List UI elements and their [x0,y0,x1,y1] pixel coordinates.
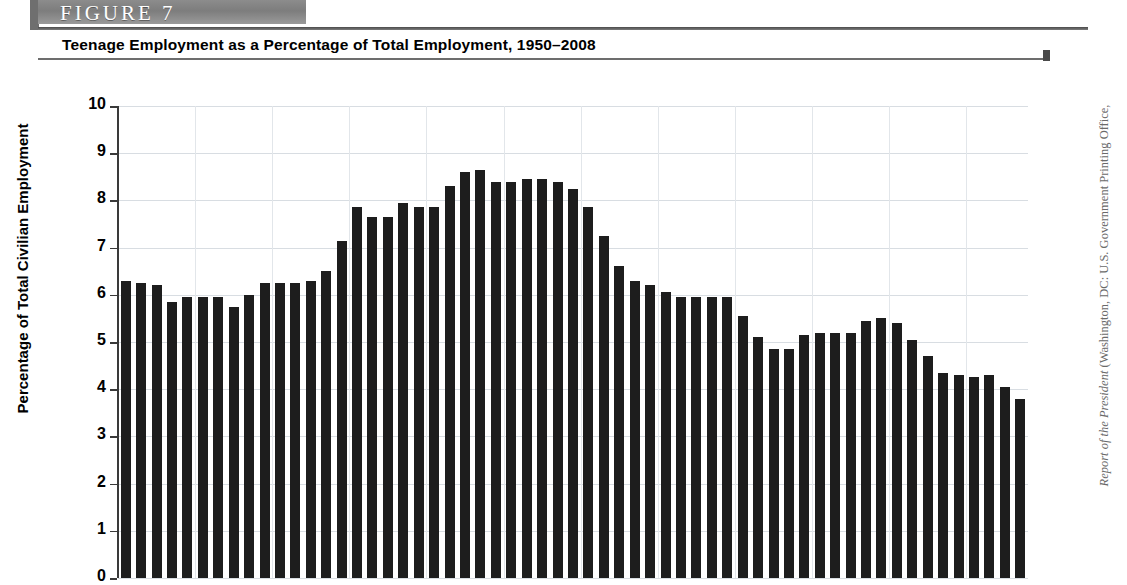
bar [260,283,270,578]
bar [522,179,532,578]
gridline-horizontal [118,106,1028,107]
y-tick-mark [110,248,117,250]
bar [876,318,886,578]
bar [938,373,948,578]
y-tick-label: 2 [72,473,106,491]
y-tick-mark [110,153,117,155]
bar [769,349,779,578]
bar [506,182,516,578]
gridline-vertical [349,106,350,578]
gridline-horizontal [118,153,1028,154]
bar [553,182,563,578]
y-tick-label: 8 [72,189,106,207]
bar [136,283,146,578]
bar [321,271,331,578]
gridline-vertical [504,106,505,578]
source-note: Report of the President (Washington, DC:… [1084,0,1108,580]
bar [1015,399,1025,578]
bar [738,316,748,578]
bar [398,203,408,578]
gridline-vertical [889,106,890,578]
bar [969,377,979,578]
bar [244,295,254,578]
y-tick-mark [110,200,117,202]
y-tick-label: 0 [72,567,106,585]
bar [954,375,964,578]
source-italic: Report of the President [1097,371,1111,487]
gridline-vertical [812,106,813,578]
bar [614,266,624,578]
gridline-vertical [272,106,273,578]
bar [846,333,856,578]
bar [645,285,655,578]
gridline-horizontal [118,578,1028,579]
bar [121,281,131,578]
y-tick-mark [110,389,117,391]
bar [337,241,347,578]
bar [753,337,763,578]
bar [1000,387,1010,578]
gridline-vertical [581,106,582,578]
source-note-text: Report of the President (Washington, DC:… [1097,0,1112,585]
y-tick-mark [110,531,117,533]
y-tick-mark [110,578,117,580]
bar [152,285,162,578]
bar [491,182,501,578]
gridline-vertical [966,106,967,578]
bar [213,297,223,578]
bar [460,172,470,578]
y-tick-mark [110,342,117,344]
bar [892,323,902,578]
bar [722,297,732,578]
bar [707,297,717,578]
bar [275,283,285,578]
bar [923,356,933,578]
bar [383,217,393,578]
y-tick-mark [110,484,117,486]
y-tick-label: 5 [72,331,106,349]
bar [167,302,177,578]
bar [599,236,609,578]
y-axis-title: Percentage of Total Civilian Employment [14,59,31,479]
y-tick-mark [110,295,117,297]
bar [583,207,593,578]
bar [429,207,439,578]
bar [445,186,455,578]
y-tick-mark [110,436,117,438]
y-tick-label: 1 [72,520,106,538]
bar [352,207,362,578]
gridline-vertical [195,106,196,578]
source-roman: (Washington, DC: U.S. Government Printin… [1097,105,1111,371]
bar [630,281,640,578]
bar [537,179,547,578]
bar [568,189,578,578]
y-axis-line [117,106,119,578]
bar [676,297,686,578]
bar [475,170,485,578]
bar [984,375,994,578]
bar [414,207,424,578]
bar [182,297,192,578]
bar [661,292,671,578]
bar [784,349,794,578]
y-tick-label: 6 [72,284,106,302]
bar [367,217,377,578]
bar [799,335,809,578]
gridline-vertical [426,106,427,578]
bar [229,307,239,578]
y-tick-label: 10 [72,95,106,113]
bar [290,283,300,578]
y-tick-mark [110,106,117,108]
bar [198,297,208,578]
bar [907,340,917,578]
bar [815,333,825,578]
bar [691,297,701,578]
y-tick-label: 4 [72,378,106,396]
bar [830,333,840,578]
bar [306,281,316,578]
y-tick-label: 7 [72,237,106,255]
y-tick-label: 9 [72,142,106,160]
y-tick-label: 3 [72,425,106,443]
